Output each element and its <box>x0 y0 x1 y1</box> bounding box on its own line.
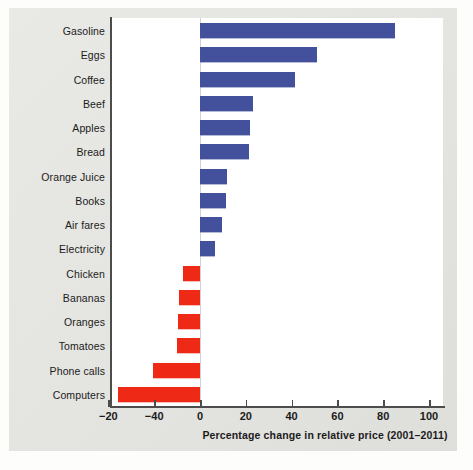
axis-tick <box>108 400 110 407</box>
bar-row: Air fares <box>0 213 473 237</box>
bar-coffee <box>200 72 295 87</box>
bar-computers <box>118 387 200 402</box>
category-label: Tomatoes <box>59 334 105 358</box>
bar-eggs <box>200 47 317 62</box>
axis-tick <box>383 400 385 407</box>
category-label: Phone calls <box>50 359 105 383</box>
category-label: Electricity <box>59 237 105 261</box>
bar-row: Bread <box>0 140 473 164</box>
category-label: Oranges <box>64 310 105 334</box>
bar-row: Gasoline <box>0 19 473 43</box>
axis-tick <box>292 400 294 407</box>
category-label: Eggs <box>81 43 105 67</box>
bar-row: Beef <box>0 92 473 116</box>
bar-row: Phone calls <box>0 359 473 383</box>
axis-tick-label: 80 <box>377 410 389 422</box>
bar-row: Orange Juice <box>0 165 473 189</box>
bar-bananas <box>179 290 200 305</box>
axis-tick-label: 0 <box>197 410 203 422</box>
category-label: Chicken <box>66 262 105 286</box>
category-label: Books <box>75 189 105 213</box>
bar-oranges <box>178 314 200 329</box>
bar-row: Electricity <box>0 237 473 261</box>
axis-tick-label: 40 <box>285 410 297 422</box>
axis-tick-label: −40 <box>145 410 164 422</box>
bar-electricity <box>200 241 215 256</box>
bar-beef <box>200 96 253 111</box>
axis-tick <box>246 400 248 407</box>
axis-tick <box>337 400 339 407</box>
bar-bread <box>200 144 249 159</box>
bar-row: Eggs <box>0 43 473 67</box>
axis-tick-label: 60 <box>331 410 343 422</box>
bar-apples <box>200 120 250 135</box>
bar-row: Oranges <box>0 310 473 334</box>
bar-phone-calls <box>153 363 200 378</box>
category-label: Bread <box>76 140 105 164</box>
category-label: Beef <box>83 92 105 116</box>
axis-tick <box>429 400 431 407</box>
bar-row: Computers <box>0 383 473 407</box>
category-label: Coffee <box>74 68 105 92</box>
category-label: Air fares <box>65 213 105 237</box>
category-label: Gasoline <box>63 19 105 43</box>
category-label: Apples <box>72 116 105 140</box>
bar-row: Chicken <box>0 262 473 286</box>
axis-tick <box>154 400 156 407</box>
axis-tick-label: 20 <box>240 410 252 422</box>
bar-gasoline <box>200 23 395 38</box>
bar-row: Coffee <box>0 68 473 92</box>
axis-tick <box>200 400 202 407</box>
x-axis-title: Percentage change in relative price (200… <box>200 429 450 441</box>
bar-row: Tomatoes <box>0 334 473 358</box>
axis-tick-label: −20 <box>99 410 118 422</box>
category-label: Computers <box>53 383 105 407</box>
bar-books <box>200 193 226 208</box>
bar-row: Bananas <box>0 286 473 310</box>
bar-row: Books <box>0 189 473 213</box>
bar-air-fares <box>200 217 222 232</box>
axis-tick-label: 100 <box>420 410 438 422</box>
category-label: Orange Juice <box>41 165 105 189</box>
category-label: Bananas <box>63 286 105 310</box>
figure-page: GasolineEggsCoffeeBeefApplesBreadOrange … <box>0 0 473 470</box>
bar-row: Apples <box>0 116 473 140</box>
bar-orange-juice <box>200 169 227 184</box>
bar-chicken <box>183 266 200 281</box>
bar-tomatoes <box>177 338 200 353</box>
